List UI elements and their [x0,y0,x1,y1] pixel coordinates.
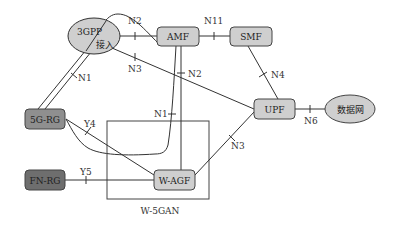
node-amf-label: AMF [166,32,189,42]
node-fn-rg-label: FN-RG [29,176,60,186]
label-n2-mid: N2 [188,69,202,79]
node-data-network: 数据网 [325,95,375,123]
node-3gpp-label-bottom: 接入 [96,39,114,50]
diagram-canvas: 3GPP 接入 AMF SMF UPF 数据网 5G-RG FN-RG W-AG… [0,0,396,225]
node-5g-rg: 5G-RG [25,109,65,129]
node-smf: SMF [230,27,272,46]
node-w-agf: W-AGF [154,170,195,190]
node-data-network-label: 数据网 [337,104,364,115]
edge-3gpp-upf [112,48,254,109]
w-5gan-group-label: W-5GAN [141,206,180,216]
node-smf-label: SMF [240,32,262,42]
node-fn-rg: FN-RG [25,170,65,190]
node-amf: AMF [157,27,199,46]
node-3gpp-access: 3GPP 接入 [68,18,120,54]
node-5g-rg-label: 5G-RG [30,115,60,125]
label-n3-top: N3 [128,64,142,74]
label-n4: N4 [271,70,285,80]
label-n11: N11 [204,16,223,26]
node-3gpp-label-top: 3GPP [77,27,102,37]
node-upf: UPF [254,99,295,119]
label-n1-mid: N1 [154,109,168,119]
label-y5: Y5 [79,167,92,177]
label-n3-bottom: N3 [231,141,245,151]
node-w-agf-label: W-AGF [159,176,191,186]
label-y4: Y4 [83,119,96,129]
label-n1-left: N1 [78,73,92,83]
label-n2-top: N2 [128,16,142,26]
node-upf-label: UPF [265,105,285,115]
label-n6: N6 [304,116,318,126]
diagram-svg: 3GPP 接入 AMF SMF UPF 数据网 5G-RG FN-RG W-AG… [0,0,396,225]
